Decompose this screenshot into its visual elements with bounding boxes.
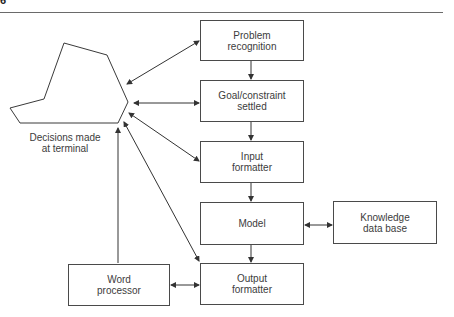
node-word-processor: Word processor	[68, 264, 170, 306]
node-problem-recognition: Problem recognition	[200, 20, 304, 61]
node-goal-constraint: Goal/constraint settled	[200, 80, 304, 122]
node-output-formatter: Output formatter	[200, 263, 304, 305]
node-input-formatter: Input formatter	[200, 141, 304, 183]
terminal-label: Decisions made at terminal	[20, 132, 110, 154]
terminal-shape	[10, 43, 128, 123]
node-model: Model	[200, 202, 304, 245]
edge-terminal-input	[129, 113, 199, 161]
edge-terminal-problem	[127, 41, 199, 84]
node-knowledge-base: Knowledge data base	[333, 201, 437, 244]
edge-terminal-output	[124, 122, 199, 261]
